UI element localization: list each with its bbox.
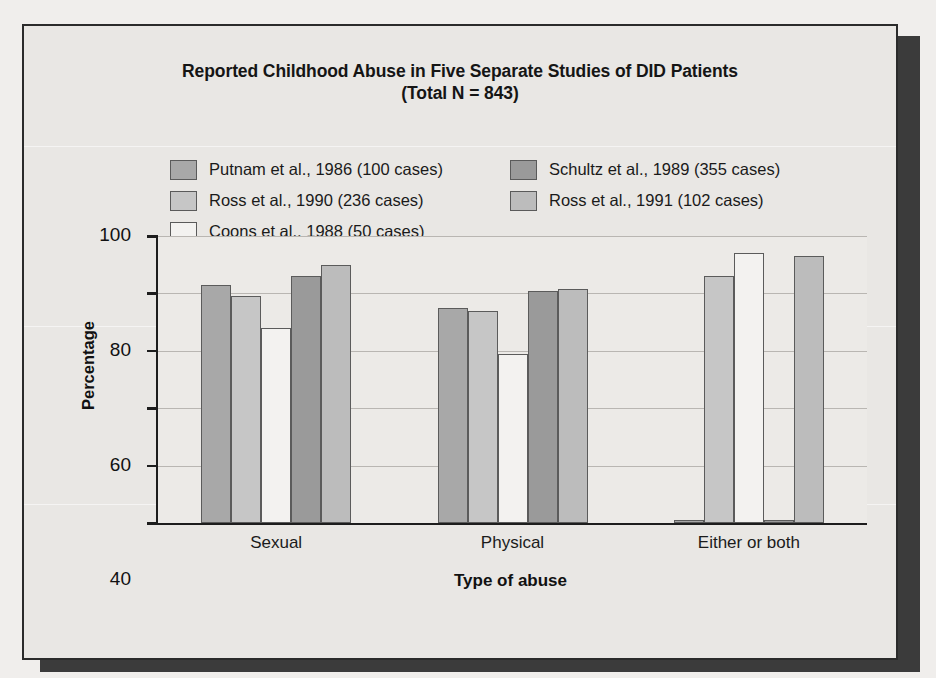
x-axis-group-label: Either or both	[698, 533, 800, 553]
bar	[674, 520, 704, 523]
y-axis-tick-label: 60	[110, 454, 131, 476]
y-axis-tick: 0	[147, 522, 158, 525]
bar	[261, 328, 291, 523]
bar	[704, 276, 734, 523]
x-axis-title: Type of abuse	[156, 571, 865, 591]
bar	[438, 308, 468, 523]
bar	[201, 285, 231, 523]
x-axis-group-label: Physical	[481, 533, 544, 553]
plot-area: 020406080100SexualPhysicalEither or both	[156, 236, 867, 525]
bar	[734, 253, 764, 523]
bar	[498, 354, 528, 523]
bar	[558, 289, 588, 523]
y-axis-title: Percentage	[79, 266, 98, 466]
bar	[764, 520, 794, 523]
bar	[231, 296, 261, 523]
y-axis-tick: 20	[147, 465, 158, 468]
bar	[321, 265, 351, 523]
y-axis-tick-label: 100	[99, 224, 131, 246]
y-axis-tick: 80	[147, 292, 158, 295]
y-axis-tick-label: 80	[110, 339, 131, 361]
y-axis-tick: 40	[147, 407, 158, 410]
y-axis-tick-label: 40	[110, 568, 131, 590]
figure-frame: Reported Childhood Abuse in Five Separat…	[22, 24, 898, 660]
x-axis-group-label: Sexual	[250, 533, 302, 553]
bar	[291, 276, 321, 523]
bar	[528, 291, 558, 523]
gridline	[158, 236, 867, 237]
bar	[468, 311, 498, 523]
y-axis-tick: 60	[147, 350, 158, 353]
plot-wrapper: Percentage 020406080100SexualPhysicalEit…	[24, 26, 900, 662]
y-axis-tick: 100	[147, 235, 158, 238]
bar	[794, 256, 824, 523]
